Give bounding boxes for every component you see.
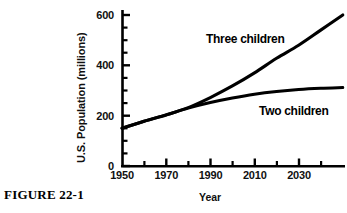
x-axis-title: Year (199, 192, 221, 203)
x-tick-label-2010: 2010 (233, 170, 277, 181)
figure-caption: FIGURE 22-1 (4, 188, 84, 201)
x-tick-label-1970: 1970 (144, 170, 188, 181)
figure-container: 0 200 400 600 1950 1970 1990 2010 2030 U… (0, 0, 347, 213)
y-tick-label-400: 400 (86, 60, 114, 71)
y-tick-label-600: 600 (86, 10, 114, 21)
x-tick-label-1990: 1990 (189, 170, 233, 181)
series-label-two-children: Two children (259, 105, 329, 117)
y-axis-title: U.S. Population (millions) (76, 32, 87, 163)
series-label-three-children: Three children (206, 33, 285, 45)
y-tick-label-200: 200 (86, 111, 114, 122)
x-tick-label-1950: 1950 (100, 170, 144, 181)
x-tick-label-2030: 2030 (277, 170, 321, 181)
